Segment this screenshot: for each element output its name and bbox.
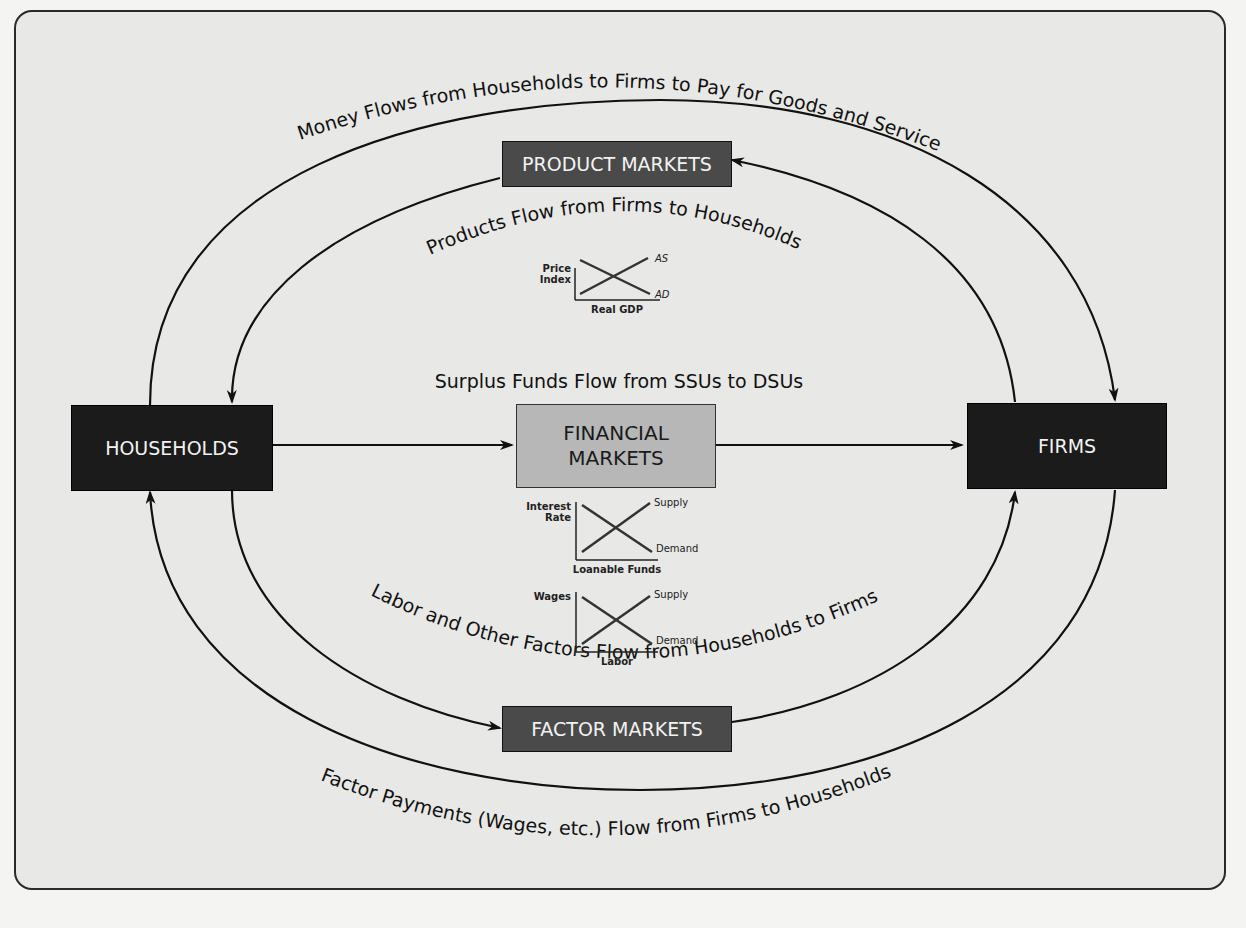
svg-text:Supply: Supply bbox=[654, 497, 688, 508]
svg-text:Demand: Demand bbox=[656, 543, 698, 554]
labor-to-factor-arrow bbox=[232, 490, 500, 728]
svg-text:Supply: Supply bbox=[654, 589, 688, 600]
svg-text:Money Flows from Households to: Money Flows from Households to Firms to … bbox=[0, 0, 945, 155]
firms-label: FIRMS bbox=[1038, 435, 1096, 457]
products-to-households-arrow bbox=[232, 178, 500, 402]
firms-node: FIRMS bbox=[967, 403, 1167, 489]
svg-text:Products Flow from Firms to Ho: Products Flow from Firms to Households bbox=[423, 193, 806, 258]
svg-text:Factor Payments (Wages, etc.): Factor Payments (Wages, etc.) Flow from … bbox=[319, 759, 894, 839]
svg-text:Demand: Demand bbox=[656, 635, 698, 646]
factor-payments-label: Factor Payments (Wages, etc.) Flow from … bbox=[319, 759, 894, 839]
product-markets-node: PRODUCT MARKETS bbox=[502, 141, 732, 187]
money-flow-label: Money Flows from Households to Firms to … bbox=[0, 0, 945, 155]
loanable-funds-mini-chart: Interest Rate Supply Demand Loanable Fun… bbox=[526, 497, 698, 575]
svg-text:Interest: Interest bbox=[526, 501, 571, 512]
financial-markets-label-line1: FINANCIAL bbox=[563, 421, 669, 446]
households-node: HOUSEHOLDS bbox=[71, 405, 273, 491]
svg-text:Price: Price bbox=[543, 263, 572, 274]
products-from-firms-arrow bbox=[732, 160, 1015, 402]
factor-markets-node: FACTOR MARKETS bbox=[502, 706, 732, 752]
factor-markets-label: FACTOR MARKETS bbox=[531, 718, 703, 740]
products-flow-label: Products Flow from Firms to Households bbox=[423, 193, 806, 258]
svg-text:Index: Index bbox=[540, 274, 572, 285]
financial-markets-label-line2: MARKETS bbox=[568, 446, 664, 471]
svg-text:Wages: Wages bbox=[534, 591, 571, 602]
labor-flow-label: Labor and Other Factors Flow from Househ… bbox=[368, 579, 880, 663]
svg-text:Labor and Other Factors Flow f: Labor and Other Factors Flow from Househ… bbox=[368, 579, 880, 663]
surplus-funds-label: Surplus Funds Flow from SSUs to DSUs bbox=[410, 370, 828, 392]
svg-text:Labor: Labor bbox=[601, 656, 633, 667]
svg-text:AD: AD bbox=[654, 289, 670, 300]
svg-text:Real GDP: Real GDP bbox=[591, 304, 643, 315]
product-markets-label: PRODUCT MARKETS bbox=[522, 153, 712, 175]
households-label: HOUSEHOLDS bbox=[105, 437, 239, 459]
svg-text:Loanable Funds: Loanable Funds bbox=[573, 564, 661, 575]
financial-markets-node: FINANCIAL MARKETS bbox=[516, 404, 716, 488]
product-market-mini-chart: Price Index AS AD Real GDP bbox=[540, 253, 670, 315]
svg-text:AS: AS bbox=[654, 253, 669, 264]
svg-text:Rate: Rate bbox=[545, 512, 571, 523]
